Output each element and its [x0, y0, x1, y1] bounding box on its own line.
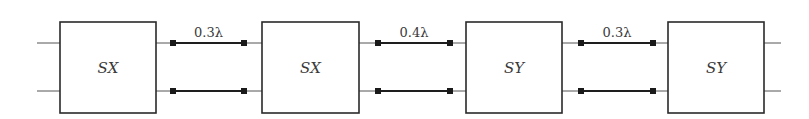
- terminal-marker: [447, 88, 453, 94]
- terminal-marker: [170, 88, 176, 94]
- terminal-marker: [578, 88, 584, 94]
- terminal-marker: [447, 40, 453, 46]
- transmission-line: 0.4λ: [359, 25, 466, 94]
- block-label: SY: [504, 59, 526, 77]
- terminal-marker: [170, 40, 176, 46]
- block-label: SX: [98, 59, 120, 77]
- block-label: SX: [300, 59, 322, 77]
- terminal-marker: [650, 40, 656, 46]
- terminal-marker: [375, 88, 381, 94]
- two-port-block: SX: [262, 22, 359, 113]
- terminal-marker: [578, 40, 584, 46]
- two-port-block: SY: [466, 22, 562, 113]
- line-length-label: 0.4λ: [400, 25, 429, 40]
- line-length-label: 0.3λ: [194, 25, 223, 40]
- cascade-diagram: 0.3λ0.4λ0.3λSXSXSYSY: [0, 0, 809, 119]
- transmission-line: 0.3λ: [156, 25, 262, 94]
- transmission-line: 0.3λ: [562, 25, 668, 94]
- terminal-marker: [375, 40, 381, 46]
- two-port-block: SX: [60, 22, 156, 113]
- two-port-block: SY: [668, 22, 764, 113]
- line-length-label: 0.3λ: [603, 25, 632, 40]
- terminal-marker: [241, 88, 247, 94]
- block-label: SY: [706, 59, 728, 77]
- terminal-marker: [650, 88, 656, 94]
- terminal-marker: [241, 40, 247, 46]
